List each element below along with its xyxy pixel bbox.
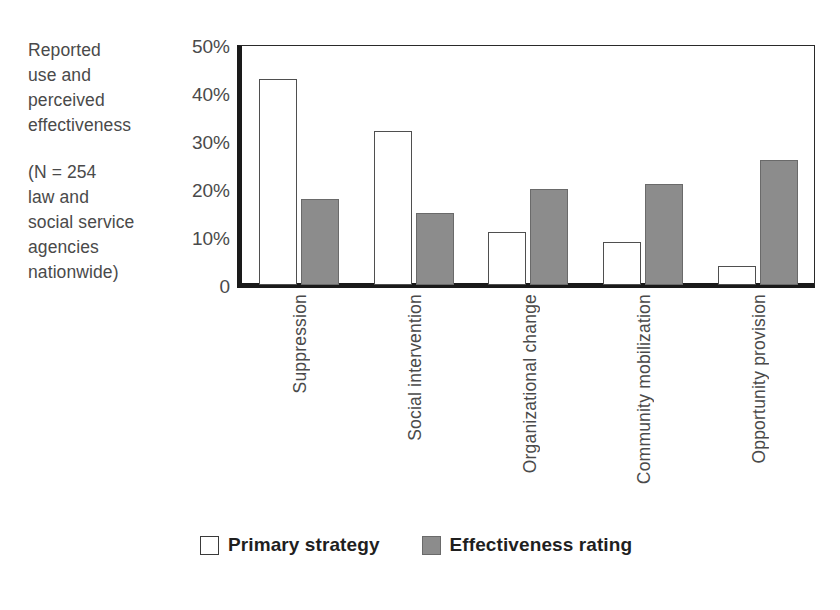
legend-label-effectiveness: Effectiveness rating <box>450 534 633 556</box>
caption-line-7: social service <box>28 210 178 235</box>
x-axis-label-2: Organizational change <box>520 294 541 473</box>
bar-organizational-change-primary-strategy[interactable] <box>488 232 526 285</box>
x-axis-category-labels: SuppressionSocial interventionOrganizati… <box>242 294 815 529</box>
caption-line-8: agencies <box>28 235 178 260</box>
caption-line-6: law and <box>28 185 178 210</box>
bar-group-0 <box>242 45 357 285</box>
legend-swatch-effectiveness-icon <box>422 536 441 555</box>
y-axis-tick-2: 20% <box>192 180 230 202</box>
legend-swatch-primary-icon <box>200 536 219 555</box>
bar-opportunity-provision-primary-strategy[interactable] <box>718 266 756 285</box>
legend-item-effectiveness-rating[interactable]: Effectiveness rating <box>422 534 633 556</box>
y-axis-tick-3: 30% <box>192 132 230 154</box>
bar-group-2 <box>471 45 586 285</box>
bar-group-3 <box>586 45 701 285</box>
bar-social-intervention-primary-strategy[interactable] <box>374 131 412 285</box>
x-axis-label-3: Community mobilization <box>634 294 655 484</box>
y-axis-tick-4: 40% <box>192 84 230 106</box>
bar-group-1 <box>357 45 472 285</box>
bar-suppression-effectiveness-rating[interactable] <box>301 199 339 285</box>
y-axis-tick-0: 0 <box>219 276 230 298</box>
caption-line-3: perceived <box>28 88 178 113</box>
legend-label-primary: Primary strategy <box>228 534 380 556</box>
x-axis-label-0: Suppression <box>290 294 311 393</box>
caption-line-2: use and <box>28 63 178 88</box>
legend-item-primary-strategy[interactable]: Primary strategy <box>200 534 380 556</box>
y-axis-tick-1: 10% <box>192 228 230 250</box>
caption-line-1: Reported <box>28 38 178 63</box>
bar-group-4 <box>700 45 815 285</box>
figure-bar-chart: Reported use and perceived effectiveness… <box>0 0 840 610</box>
caption-line-9: nationwide) <box>28 260 178 285</box>
bar-suppression-primary-strategy[interactable] <box>259 79 297 285</box>
bar-social-intervention-effectiveness-rating[interactable] <box>416 213 454 285</box>
caption-line-5: (N = 254 <box>28 160 178 185</box>
x-axis-label-4: Opportunity provision <box>749 294 770 464</box>
caption-spacer <box>28 138 178 160</box>
caption-line-4: effectiveness <box>28 113 178 138</box>
bars-layer <box>242 45 815 285</box>
y-axis-tick-5: 50% <box>192 36 230 58</box>
bar-organizational-change-effectiveness-rating[interactable] <box>530 189 568 285</box>
chart-legend: Primary strategy Effectiveness rating <box>200 534 632 556</box>
bar-community-mobilization-effectiveness-rating[interactable] <box>645 184 683 285</box>
bar-community-mobilization-primary-strategy[interactable] <box>603 242 641 285</box>
bar-opportunity-provision-effectiveness-rating[interactable] <box>760 160 798 285</box>
y-axis: 010%20%30%40%50% <box>170 45 230 288</box>
figure-caption: Reported use and perceived effectiveness… <box>28 38 178 285</box>
x-axis-label-1: Social intervention <box>405 294 426 441</box>
